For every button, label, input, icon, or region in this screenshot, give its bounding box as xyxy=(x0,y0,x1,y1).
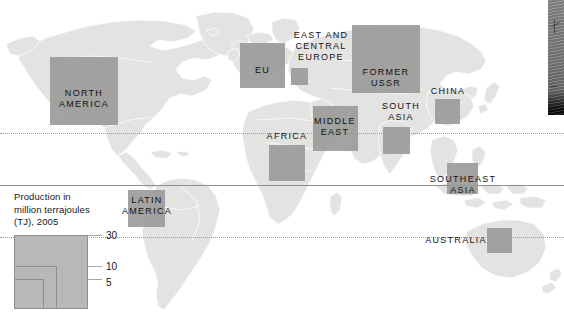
data-square-north-america[interactable] xyxy=(50,57,118,125)
legend-value-30: 30 xyxy=(106,231,117,241)
data-square-southeast-asia[interactable] xyxy=(447,163,478,194)
page-edge-photo-fragment xyxy=(548,0,564,115)
data-square-china[interactable] xyxy=(435,99,460,124)
legend-tick-30 xyxy=(88,235,102,236)
legend-tick-10 xyxy=(88,266,102,267)
data-square-australia[interactable] xyxy=(487,228,512,253)
legend-symbol-scale: 30 10 5 xyxy=(14,235,88,309)
legend-value-10: 10 xyxy=(106,262,117,272)
data-square-former-ussr[interactable] xyxy=(352,25,420,93)
data-square-middle-east[interactable] xyxy=(313,106,358,151)
legend: Production in million terrajoules (TJ), … xyxy=(14,191,126,309)
latitude-line-tropic-of-cancer xyxy=(0,133,564,134)
data-square-eu[interactable] xyxy=(240,43,285,88)
data-square-south-asia[interactable] xyxy=(383,127,410,154)
latitude-line-equator xyxy=(0,185,564,186)
data-square-africa[interactable] xyxy=(269,145,305,181)
data-square-east-and-central-europe[interactable] xyxy=(291,68,308,85)
legend-box-5 xyxy=(14,279,44,309)
legend-tick-5 xyxy=(88,279,102,280)
world-energy-production-map: NORTH AMERICA EU EAST AND CENTRAL EUROPE… xyxy=(0,0,564,324)
legend-title: Production in million terrajoules (TJ), … xyxy=(14,191,126,229)
legend-value-5: 5 xyxy=(106,278,112,288)
data-square-latin-america[interactable] xyxy=(128,190,165,227)
